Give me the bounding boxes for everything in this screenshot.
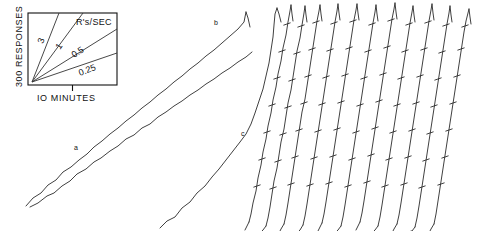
trace-reset-bottom-5: [318, 223, 322, 231]
trace-reset-top-8: [413, 6, 415, 22]
trace-steep-9: [397, 4, 432, 224]
slope-label-0-25: 0.25: [77, 62, 97, 78]
trace-label-a: a: [74, 144, 78, 151]
trace-reset-bottom-11: [430, 224, 434, 231]
event-mark: [369, 23, 375, 25]
trace-reset-top-3: [320, 5, 322, 21]
event-mark: [365, 50, 371, 52]
cumulative-record-figure: 3 1 0.5 0.25 R's/SEC IO MINUTES 300 RESP…: [0, 0, 482, 231]
cumulative-traces: [26, 3, 471, 231]
trace-steep-5: [322, 4, 357, 223]
event-mark: [350, 20, 356, 22]
trace-steep-6: [341, 5, 376, 226]
trace-steep-11: [434, 9, 469, 224]
event-mark: [443, 24, 449, 26]
trace-steep-7: [360, 3, 395, 222]
trace-reset-bottom-2: [262, 226, 266, 231]
trace-reset-bottom-1: [245, 222, 249, 230]
trace-reset-top-2: [305, 6, 307, 22]
trace-c: [160, 8, 277, 228]
trace-a-upper: [26, 12, 246, 206]
trace-b-reset: [246, 12, 250, 27]
trace-reset-top-7: [395, 3, 397, 19]
slope-label-3: 3: [35, 37, 46, 45]
event-mark: [309, 48, 315, 50]
trace-reset-top-1: [291, 5, 293, 21]
trace-reset-top-11: [469, 9, 471, 24]
event-mark: [439, 51, 445, 53]
event-mark: [298, 25, 304, 27]
trace-label-b: b: [214, 19, 218, 26]
trace-reset-top-10: [450, 6, 452, 22]
record-canvas: 3 1 0.5 0.25 R's/SEC IO MINUTES 300 RESP…: [0, 0, 482, 231]
event-mark: [284, 23, 290, 25]
event-mark: [388, 19, 394, 21]
trace-reset-bottom-10: [411, 227, 415, 231]
event-mark: [346, 47, 352, 49]
trace-reset-top-5: [357, 4, 359, 20]
trace-reset-bottom-9: [393, 224, 397, 231]
trace-reset-bottom-4: [299, 225, 303, 231]
trace-a-lower: [30, 52, 252, 207]
trace-reset-bottom-3: [280, 224, 284, 231]
rate-calibration-key: 3 1 0.5 0.25 R's/SEC IO MINUTES 300 RESP…: [14, 6, 117, 103]
event-mark: [406, 23, 412, 25]
trace-reset-top-9: [432, 4, 434, 20]
trace-c-reset: [277, 8, 281, 22]
trace-reset-bottom-6: [337, 226, 341, 231]
trace-steep-10: [415, 6, 450, 227]
event-mark: [425, 21, 431, 23]
trace-reset-top-4: [338, 4, 340, 20]
legend-x-axis-label: IO MINUTES: [37, 93, 96, 103]
event-mark: [285, 106, 291, 108]
event-mark: [313, 21, 319, 23]
trace-steep-3: [284, 5, 320, 224]
trace-label-c: c: [241, 130, 245, 137]
event-mark: [402, 50, 408, 52]
event-mark: [384, 46, 390, 48]
event-mark: [327, 49, 333, 51]
legend-heading: R's/SEC: [76, 17, 112, 27]
event-marks: [254, 19, 468, 189]
slope-label-1: 1: [53, 41, 64, 51]
event-mark: [331, 22, 337, 24]
trace-reset-bottom-7: [356, 222, 360, 230]
event-mark: [421, 48, 427, 50]
trace-steep-8: [378, 6, 413, 226]
legend-y-axis-label: 300 RESPONSES: [14, 6, 24, 87]
trace-reset-bottom-8: [374, 226, 378, 231]
trace-reset-top-6: [376, 5, 378, 21]
trace-steep-4: [303, 4, 338, 225]
